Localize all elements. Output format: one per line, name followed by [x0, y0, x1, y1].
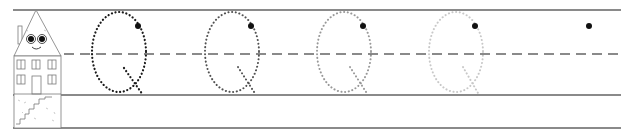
- start-dot-icon: [248, 23, 254, 29]
- house-mascot-icon: [14, 10, 61, 128]
- start-dot-icon: [586, 23, 592, 29]
- start-dot-icon: [135, 23, 141, 29]
- start-dots: [135, 23, 592, 29]
- start-dot-icon: [472, 23, 478, 29]
- tracing-worksheet: [0, 0, 625, 138]
- guide-lines: [13, 10, 621, 128]
- door-icon: [32, 76, 41, 94]
- start-dot-icon: [360, 23, 366, 29]
